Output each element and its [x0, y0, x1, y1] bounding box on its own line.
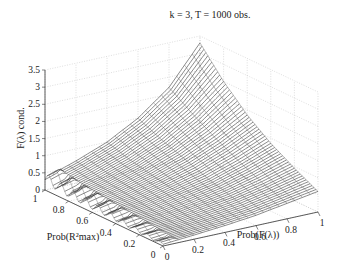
- z-tick-label: 0.5: [28, 168, 40, 178]
- x-tick: [163, 246, 165, 250]
- x-tick-label: 0.2: [192, 245, 204, 255]
- z-tick-label: 3: [35, 82, 40, 92]
- x-tick-label: 1: [320, 218, 325, 228]
- surface-line: [151, 180, 306, 239]
- wall-grid-z: [200, 36, 318, 92]
- surface-line: [45, 43, 200, 180]
- x-axis-label: Prob(F(λ)): [237, 229, 280, 241]
- wall-grid-z: [45, 53, 200, 87]
- x-tick-label: 0.8: [285, 225, 297, 235]
- y-tick-label: 0.8: [53, 205, 65, 215]
- z-tick-label: 3.5: [28, 65, 40, 75]
- y-tick-label: 1: [33, 194, 38, 204]
- z-axis-label: F(λ) cond.: [15, 107, 27, 149]
- x-tick-label: 0.4: [223, 238, 235, 248]
- x-tick: [318, 212, 320, 216]
- wall-grid-z: [200, 53, 318, 109]
- surface-line: [149, 178, 304, 236]
- z-tick-label: 2.5: [28, 99, 40, 109]
- surface-mesh: [45, 43, 318, 244]
- surface-line: [51, 53, 206, 180]
- y-axis-label: Prob(R²max): [47, 231, 99, 243]
- y-tick-label: 0.4: [100, 228, 112, 238]
- x-tick: [287, 219, 289, 223]
- wall-grid-z: [200, 87, 318, 143]
- y-tick: [89, 212, 92, 214]
- surface-line: [47, 46, 202, 176]
- surface-line: [75, 90, 230, 192]
- floor-grid-y: [45, 156, 200, 190]
- grid-lines: [45, 36, 318, 246]
- x-tick-label: 0: [165, 252, 170, 262]
- surface-line: [139, 168, 294, 232]
- surface-line: [67, 78, 222, 196]
- y-tick: [66, 201, 69, 203]
- surface-plot: 00.20.40.60.8100.20.40.60.8100.511.522.5…: [0, 0, 339, 267]
- x-tick: [194, 239, 196, 243]
- wall-grid-z: [45, 70, 200, 104]
- y-tick: [136, 235, 139, 237]
- wall-grid-z: [45, 156, 200, 190]
- y-tick-label: 0.6: [76, 216, 88, 226]
- x-tick: [225, 232, 227, 236]
- z-tick-label: 1: [35, 151, 40, 161]
- z-tick-label: 0: [35, 185, 40, 195]
- y-tick: [160, 246, 163, 248]
- wall-grid-z: [200, 70, 318, 126]
- y-tick: [113, 224, 116, 226]
- wall-grid-z: [45, 36, 200, 70]
- y-tick-label: 0: [151, 250, 156, 260]
- z-tick-label: 1.5: [28, 134, 40, 144]
- y-tick-label: 0.2: [123, 239, 135, 249]
- z-tick-label: 2: [35, 116, 40, 126]
